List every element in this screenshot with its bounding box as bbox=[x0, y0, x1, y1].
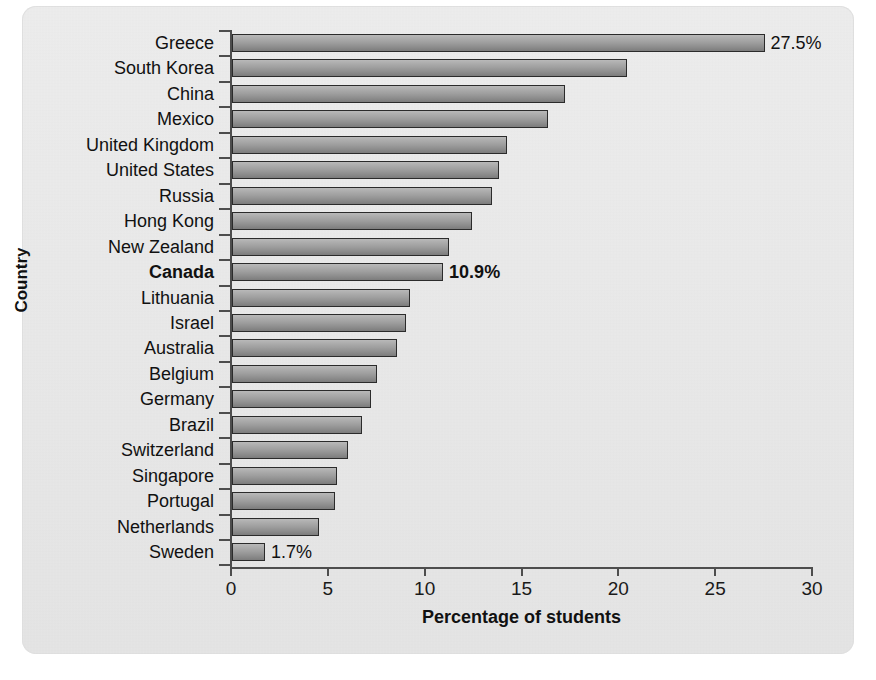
bar-row: Canada10.9% bbox=[0, 262, 876, 282]
y-tick-mark bbox=[219, 183, 231, 185]
y-tick-mark bbox=[219, 437, 231, 439]
bar-category-label: Portugal bbox=[147, 491, 214, 511]
x-tick-label: 10 bbox=[405, 578, 445, 600]
bar-category-label: New Zealand bbox=[108, 237, 214, 257]
bar bbox=[232, 238, 449, 256]
bar-category-label: Brazil bbox=[169, 415, 214, 435]
bar bbox=[232, 441, 348, 459]
bar-row: United Kingdom bbox=[0, 135, 876, 155]
bar-category-label: Singapore bbox=[132, 466, 214, 486]
bar-row: Switzerland bbox=[0, 440, 876, 460]
bar-row: New Zealand bbox=[0, 237, 876, 257]
bar-row: Belgium bbox=[0, 364, 876, 384]
y-tick-mark bbox=[219, 564, 231, 566]
bar bbox=[232, 416, 362, 434]
x-axis-title: Percentage of students bbox=[231, 607, 812, 628]
x-tick-mark bbox=[230, 567, 232, 576]
bar-row: Netherlands bbox=[0, 517, 876, 537]
bar bbox=[232, 136, 507, 154]
bar-category-label: Belgium bbox=[149, 364, 214, 384]
bar-row: Sweden1.7% bbox=[0, 542, 876, 562]
x-tick-mark bbox=[327, 567, 329, 576]
bar bbox=[232, 518, 319, 536]
bar bbox=[232, 85, 565, 103]
bar-category-label: Netherlands bbox=[117, 517, 214, 537]
x-tick-mark bbox=[424, 567, 426, 576]
y-tick-mark bbox=[219, 157, 231, 159]
plot-area: 051015202530 Greece27.5%South KoreaChina… bbox=[0, 0, 876, 680]
bar bbox=[232, 161, 499, 179]
bar-row: Greece27.5% bbox=[0, 33, 876, 53]
bar bbox=[232, 365, 377, 383]
x-tick-mark bbox=[617, 567, 619, 576]
x-tick-label: 0 bbox=[211, 578, 251, 600]
y-tick-mark bbox=[219, 310, 231, 312]
bar-row: China bbox=[0, 84, 876, 104]
bar-row: Hong Kong bbox=[0, 211, 876, 231]
bar-value-label: 1.7% bbox=[271, 542, 312, 562]
bar bbox=[232, 314, 406, 332]
bar bbox=[232, 467, 337, 485]
bar-row: Lithuania bbox=[0, 288, 876, 308]
bar-row: Israel bbox=[0, 313, 876, 333]
bar bbox=[232, 187, 492, 205]
y-tick-mark bbox=[219, 412, 231, 414]
bar-category-label: Canada bbox=[149, 262, 214, 282]
bar-category-label: Australia bbox=[144, 338, 214, 358]
y-tick-mark bbox=[219, 539, 231, 541]
bar-value-label: 27.5% bbox=[771, 33, 822, 53]
bar-category-label: Hong Kong bbox=[124, 211, 214, 231]
x-tick-mark bbox=[811, 567, 813, 576]
bar-row: Portugal bbox=[0, 491, 876, 511]
bar bbox=[232, 59, 627, 77]
bar-category-label: United States bbox=[106, 160, 214, 180]
y-tick-mark bbox=[219, 361, 231, 363]
x-tick-mark bbox=[714, 567, 716, 576]
bar-category-label: Russia bbox=[159, 186, 214, 206]
bar-category-label: Israel bbox=[170, 313, 214, 333]
y-tick-mark bbox=[219, 55, 231, 57]
bar-category-label: Switzerland bbox=[121, 440, 214, 460]
bar bbox=[232, 263, 443, 281]
bar bbox=[232, 339, 397, 357]
bar bbox=[232, 34, 765, 52]
y-tick-mark bbox=[219, 81, 231, 83]
y-tick-mark bbox=[219, 386, 231, 388]
bar-category-label: China bbox=[167, 84, 214, 104]
y-tick-mark bbox=[219, 30, 231, 32]
bar-row: United States bbox=[0, 160, 876, 180]
x-tick-mark bbox=[521, 567, 523, 576]
bar-row: Singapore bbox=[0, 466, 876, 486]
bar bbox=[232, 492, 335, 510]
y-tick-mark bbox=[219, 132, 231, 134]
bar-category-label: Mexico bbox=[157, 109, 214, 129]
chart-figure: 051015202530 Greece27.5%South KoreaChina… bbox=[0, 0, 876, 680]
bar-category-label: United Kingdom bbox=[86, 135, 214, 155]
x-tick-label: 25 bbox=[695, 578, 735, 600]
bar-value-label: 10.9% bbox=[449, 262, 500, 282]
bar-row: Australia bbox=[0, 338, 876, 358]
y-tick-mark bbox=[219, 208, 231, 210]
bar bbox=[232, 543, 265, 561]
bar bbox=[232, 390, 371, 408]
bar-category-label: Greece bbox=[155, 33, 214, 53]
x-tick-label: 5 bbox=[308, 578, 348, 600]
bar-row: South Korea bbox=[0, 58, 876, 78]
y-tick-mark bbox=[219, 106, 231, 108]
bar bbox=[232, 212, 472, 230]
bar-row: Russia bbox=[0, 186, 876, 206]
y-tick-mark bbox=[219, 488, 231, 490]
x-tick-label: 20 bbox=[598, 578, 638, 600]
bar-category-label: Germany bbox=[140, 389, 214, 409]
y-tick-mark bbox=[219, 335, 231, 337]
bar-row: Mexico bbox=[0, 109, 876, 129]
bar-category-label: South Korea bbox=[114, 58, 214, 78]
y-axis-title: Country bbox=[12, 220, 32, 340]
bar-row: Germany bbox=[0, 389, 876, 409]
bar-category-label: Sweden bbox=[149, 542, 214, 562]
bar-category-label: Lithuania bbox=[141, 288, 214, 308]
bar-row: Brazil bbox=[0, 415, 876, 435]
bar bbox=[232, 289, 410, 307]
y-tick-mark bbox=[219, 259, 231, 261]
bar bbox=[232, 110, 548, 128]
